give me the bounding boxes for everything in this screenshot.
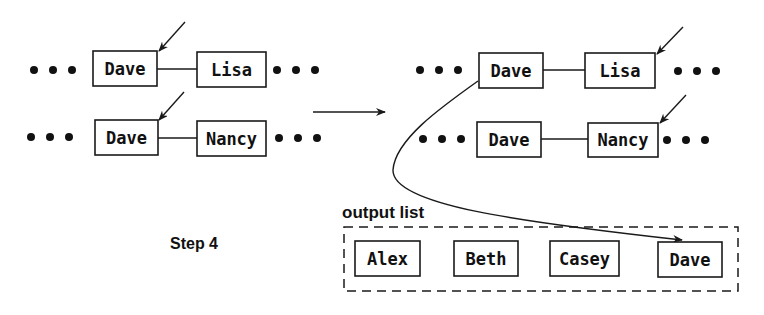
output-item-label: Dave	[670, 250, 711, 270]
node-label: Dave	[106, 128, 147, 148]
right-state: Dave Lisa Dave Nancy	[393, 27, 720, 240]
output-item-label: Beth	[466, 249, 507, 269]
left-row1-pointer-arrow-icon	[159, 22, 185, 51]
node-label: Dave	[491, 61, 532, 81]
output-item-label: Casey	[559, 249, 610, 269]
left-row1-leading-ellipsis	[30, 66, 76, 74]
left-row2-trailing-ellipsis	[275, 134, 321, 142]
right-row1-leading-ellipsis	[416, 66, 462, 74]
output-item-beth: Beth	[454, 241, 518, 276]
left-row1-node-lisa: Lisa	[197, 52, 266, 87]
left-state: Dave Lisa Dave Nancy	[27, 22, 321, 156]
right-row1-pointer-arrow-icon	[657, 27, 683, 54]
node-label: Nancy	[206, 129, 257, 149]
left-row1-node-dave: Dave	[93, 51, 157, 86]
output-item-casey: Casey	[550, 241, 619, 276]
move-to-output-arrow-icon	[393, 81, 682, 240]
output-list-label: output list	[342, 203, 424, 222]
node-label: Lisa	[600, 61, 641, 81]
right-row2-node-dave: Dave	[477, 122, 541, 157]
output-item-dave: Dave	[658, 242, 722, 277]
right-row2-pointer-arrow-icon	[660, 95, 686, 123]
right-row1-node-lisa: Lisa	[585, 53, 655, 88]
left-row2-node-nancy: Nancy	[197, 121, 266, 156]
right-row1-trailing-ellipsis	[674, 67, 720, 75]
output-item-label: Alex	[367, 249, 408, 269]
left-row2-node-dave: Dave	[95, 120, 158, 155]
right-row2-leading-ellipsis	[419, 135, 465, 143]
right-row1-node-dave: Dave	[479, 53, 543, 88]
node-label: Nancy	[597, 130, 648, 150]
left-row1-trailing-ellipsis	[273, 66, 319, 74]
left-row2-leading-ellipsis	[27, 133, 73, 141]
right-row2-trailing-ellipsis	[663, 136, 709, 144]
node-label: Lisa	[211, 60, 252, 80]
left-row2-pointer-arrow-icon	[159, 92, 184, 120]
node-label: Dave	[105, 59, 146, 79]
output-item-alex: Alex	[355, 241, 420, 276]
node-label: Dave	[489, 130, 530, 150]
merge-diagram: Dave Lisa Dave Nancy	[0, 0, 764, 315]
step-label: Step 4	[170, 235, 218, 252]
right-row2-node-nancy: Nancy	[588, 123, 658, 157]
